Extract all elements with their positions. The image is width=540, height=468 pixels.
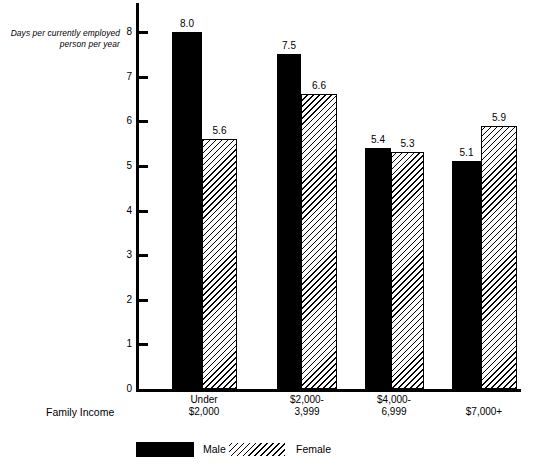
y-axis-tick bbox=[139, 31, 148, 34]
bar-male bbox=[365, 148, 391, 389]
y-axis-line bbox=[136, 3, 139, 392]
y-axis-tick-label: 3 bbox=[110, 250, 132, 260]
y-axis-tick-label: 4 bbox=[110, 206, 132, 216]
legend-label-male: Male bbox=[203, 443, 226, 455]
y-axis-tick-label: 6 bbox=[110, 116, 132, 126]
y-axis-tick-label: 0 bbox=[110, 384, 132, 394]
y-axis-title-line-2: person per year bbox=[8, 39, 120, 50]
y-axis-tick bbox=[139, 343, 148, 346]
y-axis-title-line-1: Days per currently employed bbox=[8, 28, 120, 39]
bar-value-label: 8.0 bbox=[162, 18, 212, 29]
x-axis-group-label: $4,000- 6,999 bbox=[349, 394, 439, 418]
x-axis-title: Family Income bbox=[46, 406, 114, 418]
y-axis-tick bbox=[139, 120, 148, 123]
bar-value-label: 6.6 bbox=[291, 80, 347, 91]
y-axis-tick bbox=[139, 210, 148, 213]
bar-female bbox=[391, 152, 424, 389]
bar-male bbox=[172, 32, 202, 389]
bar-male bbox=[452, 161, 481, 389]
x-axis-line bbox=[136, 389, 521, 392]
x-axis-group-label: $2,000- 3,999 bbox=[262, 394, 352, 418]
y-axis-title: Days per currently employed person per y… bbox=[8, 28, 120, 49]
bar-female bbox=[301, 94, 337, 389]
y-axis-tick bbox=[139, 165, 148, 168]
bar-value-label: 5.9 bbox=[471, 112, 527, 123]
bar-value-label: 7.5 bbox=[267, 40, 311, 51]
x-axis-group-label: $7,000+ bbox=[439, 406, 529, 418]
bar-value-label: 5.6 bbox=[192, 125, 247, 136]
bar-male bbox=[277, 54, 301, 389]
y-axis-tick-label: 1 bbox=[110, 339, 132, 349]
legend-swatch-female bbox=[228, 442, 286, 457]
bar-female bbox=[481, 126, 517, 389]
y-axis-tick-label: 5 bbox=[110, 161, 132, 171]
legend-swatch-male bbox=[136, 442, 194, 457]
y-axis-tick bbox=[139, 76, 148, 79]
legend-label-female: Female bbox=[296, 443, 331, 455]
bar-value-label: 5.3 bbox=[381, 138, 434, 149]
bar-chart: Days per currently employed person per y… bbox=[0, 0, 540, 468]
y-axis-tick-label: 2 bbox=[110, 295, 132, 305]
x-axis-group-label: Under $2,000 bbox=[159, 394, 249, 418]
y-axis-tick bbox=[139, 299, 148, 302]
y-axis-tick bbox=[139, 254, 148, 257]
y-axis-tick-label: 8 bbox=[110, 27, 132, 37]
y-axis-tick-label: 7 bbox=[110, 72, 132, 82]
bar-female bbox=[202, 139, 237, 389]
